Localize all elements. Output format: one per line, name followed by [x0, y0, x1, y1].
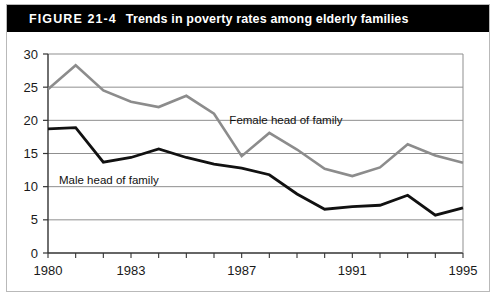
series-line-male-head-of-family — [48, 128, 463, 216]
x-tick-label: 1983 — [117, 263, 146, 278]
y-tick-label: 15 — [24, 146, 38, 161]
figure-container: FIGURE 21-4Trends in poverty rates among… — [0, 0, 496, 296]
y-tick-label: 20 — [24, 113, 38, 128]
series-annotation-group: Female head of familyMale head of family — [59, 114, 343, 186]
series-label-female-head-of-family: Female head of family — [229, 114, 342, 126]
y-axis-group: 051015202530 — [24, 47, 48, 261]
x-axis-group: 19801983198719911995 — [34, 253, 478, 278]
poverty-rate-line-chart: 051015202530 19801983198719911995 Female… — [0, 0, 496, 296]
x-tick-label: 1995 — [449, 263, 478, 278]
y-tick-label: 0 — [31, 246, 38, 261]
y-tick-label: 10 — [24, 179, 38, 194]
x-tick-label: 1991 — [338, 263, 367, 278]
y-tick-label: 30 — [24, 47, 38, 62]
x-tick-label: 1980 — [34, 263, 63, 278]
y-tick-label: 5 — [31, 212, 38, 227]
chart-plot-area: 051015202530 19801983198719911995 Female… — [0, 0, 496, 296]
gridlines-group — [48, 54, 463, 253]
series-label-male-head-of-family: Male head of family — [59, 174, 159, 186]
data-series-group — [48, 65, 463, 215]
y-tick-label: 25 — [24, 80, 38, 95]
x-tick-label: 1987 — [227, 263, 256, 278]
